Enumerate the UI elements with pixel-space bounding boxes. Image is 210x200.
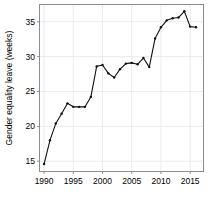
y-tick-label: 35 (26, 17, 36, 27)
data-point (113, 76, 115, 78)
data-point (119, 68, 121, 70)
data-point (43, 163, 45, 165)
data-point (195, 26, 197, 28)
y-tick-labels: 1520253035 (26, 17, 36, 166)
x-tick-labels: 199019952000200520102015 (35, 176, 200, 186)
plot-frame (40, 5, 204, 172)
data-point (160, 26, 162, 28)
data-point (154, 37, 156, 39)
gridlines (40, 5, 203, 171)
y-tick-label: 15 (26, 156, 36, 166)
y-tick-label: 20 (26, 121, 36, 131)
data-point (131, 62, 133, 64)
x-tick-label: 2000 (93, 176, 112, 186)
x-tick-label: 1990 (35, 176, 54, 186)
data-point (136, 63, 138, 65)
data-point (142, 57, 144, 59)
data-point (171, 17, 173, 19)
data-point (55, 122, 57, 124)
data-series-line (44, 11, 196, 164)
line-chart-plot: 1520253035 199019952000200520102015 (0, 0, 210, 200)
y-tick-label: 30 (26, 52, 36, 62)
data-point (66, 102, 68, 104)
data-point (166, 19, 168, 21)
data-point (78, 106, 80, 108)
data-point (101, 64, 103, 66)
x-tick-label: 2015 (181, 176, 200, 186)
data-point (60, 113, 62, 115)
data-point (148, 66, 150, 68)
data-point (177, 16, 179, 18)
data-point (72, 106, 74, 108)
axis-tickmarks (37, 22, 190, 174)
data-point (189, 25, 191, 27)
data-series-points (43, 10, 197, 165)
data-point (125, 62, 127, 64)
data-point (90, 96, 92, 98)
chart-figure: Gender equality leave (weeks) 1520253035… (0, 0, 210, 200)
data-point (183, 10, 185, 12)
data-point (95, 65, 97, 67)
data-point (49, 139, 51, 141)
x-tick-label: 2005 (122, 176, 141, 186)
data-point (84, 106, 86, 108)
data-point (107, 72, 109, 74)
x-tick-label: 2010 (151, 176, 170, 186)
x-tick-label: 1995 (64, 176, 83, 186)
y-tick-label: 25 (26, 86, 36, 96)
